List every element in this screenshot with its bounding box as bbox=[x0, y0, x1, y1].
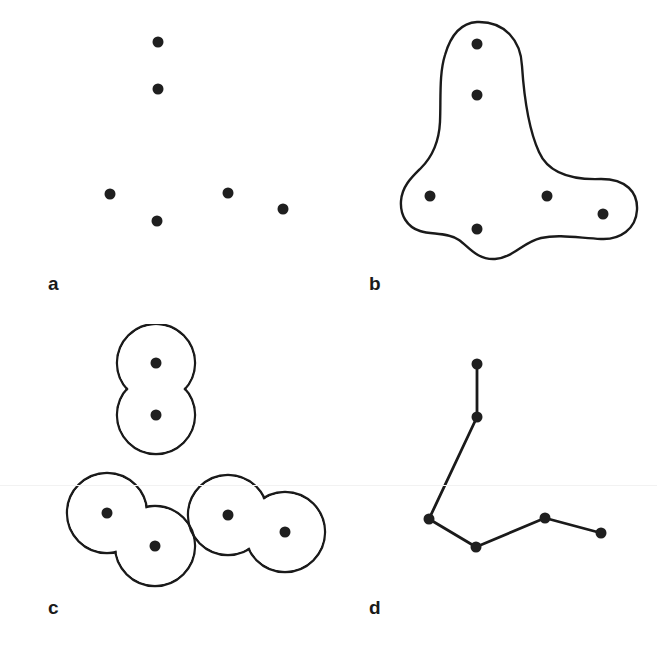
panel-label-c: c bbox=[48, 598, 59, 617]
data-point bbox=[150, 541, 161, 552]
mst-edge bbox=[545, 518, 601, 533]
data-point bbox=[472, 412, 483, 423]
data-point bbox=[153, 37, 164, 48]
data-point bbox=[425, 191, 436, 202]
data-point bbox=[598, 209, 609, 220]
data-point bbox=[424, 514, 435, 525]
mst-edge bbox=[476, 518, 545, 547]
data-point bbox=[540, 513, 551, 524]
data-point bbox=[223, 510, 234, 521]
data-point bbox=[102, 508, 113, 519]
data-point bbox=[542, 191, 553, 202]
data-point bbox=[471, 542, 482, 553]
mst-edge bbox=[429, 519, 476, 547]
cluster-union-group bbox=[188, 475, 325, 572]
data-point bbox=[472, 224, 483, 235]
data-point bbox=[472, 39, 483, 50]
panel-label-b: b bbox=[369, 274, 381, 293]
data-point bbox=[278, 204, 289, 215]
panel-b: b bbox=[329, 0, 657, 323]
cluster-contour bbox=[401, 22, 637, 259]
data-point bbox=[105, 189, 116, 200]
data-point bbox=[223, 188, 234, 199]
figure-root: a b c d bbox=[0, 0, 657, 647]
data-point bbox=[596, 528, 607, 539]
panel-a: a bbox=[0, 0, 328, 323]
data-point bbox=[472, 359, 483, 370]
data-point bbox=[472, 90, 483, 101]
cluster-union-group bbox=[117, 324, 195, 454]
data-point bbox=[151, 410, 162, 421]
data-point bbox=[153, 84, 164, 95]
panel-label-a: a bbox=[48, 274, 59, 293]
cluster-union-group bbox=[67, 473, 195, 586]
data-point bbox=[152, 216, 163, 227]
panel-label-d: d bbox=[369, 598, 381, 617]
panel-d: d bbox=[329, 324, 657, 647]
panel-c: c bbox=[0, 324, 328, 647]
data-point bbox=[151, 358, 162, 369]
mst-edge bbox=[429, 417, 477, 519]
data-point bbox=[280, 527, 291, 538]
